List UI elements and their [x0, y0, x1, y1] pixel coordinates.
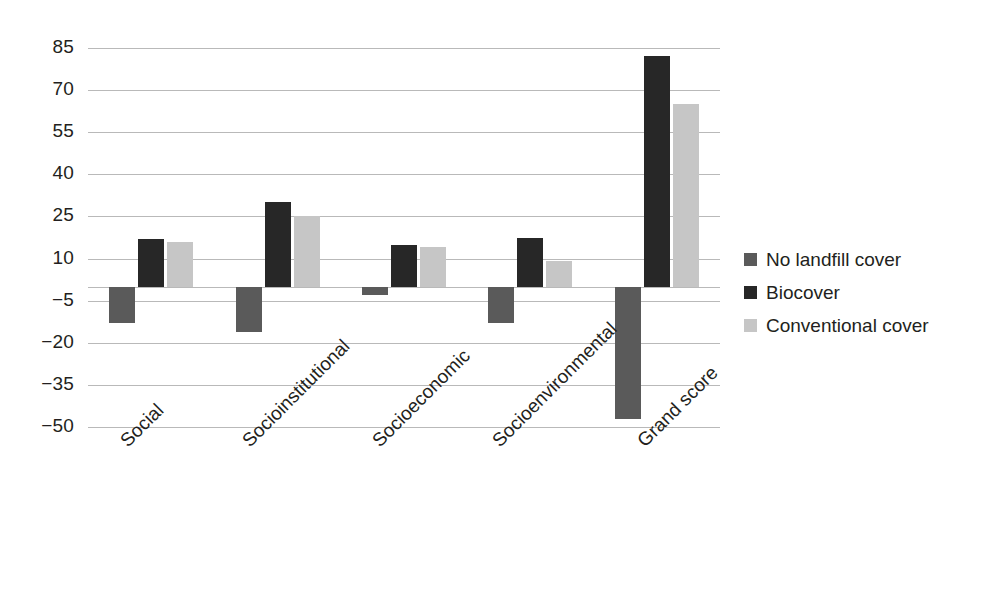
x-axis-category-labels: SocialSocioinstitutionalSocioeconomicSoc…: [88, 430, 728, 600]
y-axis-tick-label: −50: [0, 415, 74, 437]
legend-swatch-icon: [744, 253, 757, 266]
bar: [362, 287, 388, 295]
bar-chart: 857055402510−5−20−35−50 SocialSocioinsti…: [0, 0, 1000, 602]
legend-label: No landfill cover: [766, 249, 901, 271]
bar: [138, 239, 164, 287]
bar: [546, 261, 572, 286]
legend-label: Conventional cover: [766, 315, 929, 337]
bar: [167, 242, 193, 287]
legend-item[interactable]: Biocover: [744, 276, 992, 309]
bar: [517, 238, 543, 287]
legend-swatch-icon: [744, 286, 757, 299]
y-axis-tick-label: 40: [0, 162, 74, 184]
bar: [644, 56, 670, 286]
y-axis-tick-label: 85: [0, 36, 74, 58]
chart-legend: No landfill coverBiocoverConventional co…: [744, 243, 992, 342]
y-axis-tick-label: −20: [0, 331, 74, 353]
legend-swatch-icon: [744, 319, 757, 332]
bar: [236, 287, 262, 332]
bar: [294, 216, 320, 286]
bar: [109, 287, 135, 323]
y-axis-tick-label: −35: [0, 373, 74, 395]
bar: [615, 287, 641, 419]
plot-area: [88, 48, 720, 427]
y-axis-tick-label: −5: [0, 289, 74, 311]
bar: [265, 202, 291, 286]
legend-item[interactable]: No landfill cover: [744, 243, 992, 276]
bar: [420, 247, 446, 286]
y-axis-tick-labels: 857055402510−5−20−35−50: [0, 0, 80, 602]
y-axis-tick-label: 10: [0, 247, 74, 269]
y-axis-tick-label: 55: [0, 120, 74, 142]
bar-group: [88, 48, 214, 427]
bar: [488, 287, 514, 323]
bar: [391, 245, 417, 287]
legend-item[interactable]: Conventional cover: [744, 309, 992, 342]
bar: [673, 104, 699, 286]
legend-label: Biocover: [766, 282, 840, 304]
y-axis-tick-label: 70: [0, 78, 74, 100]
y-axis-tick-label: 25: [0, 204, 74, 226]
